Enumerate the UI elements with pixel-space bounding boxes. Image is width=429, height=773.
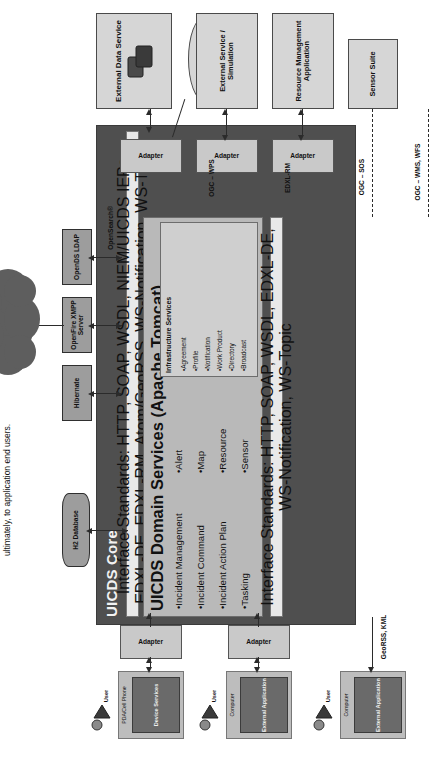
protocol-ogc-wms-wfs-label: OGC – WMS, WFS [414, 144, 421, 201]
infra-item-work-product: •Work Product [214, 231, 225, 371]
network-cloud [0, 265, 44, 381]
arrow-rma-l [298, 135, 304, 141]
external-service-simulation-real: External Service / Simulation [196, 13, 258, 109]
client-computer-device-label-1: Computer [228, 673, 238, 737]
component-openfire-label: OpenFire XMPP Server [70, 298, 85, 352]
protocol-ogc-sos: OGC – SOS [352, 137, 372, 217]
infrastructure-services-title: Infrastructure Services [163, 225, 175, 373]
infra-item-agreement: •Agreement [178, 231, 189, 371]
arrow-adapter1-core [146, 613, 152, 619]
client-computer-app-label-2: External Application [354, 677, 402, 733]
database-icon [127, 44, 153, 78]
infra-item-directory: •Directory [226, 231, 237, 371]
arrow-pda-r [146, 657, 152, 663]
domain-item-alert: •Alert [172, 363, 186, 473]
domain-item-map: •Map [194, 363, 208, 473]
sensor-suite: Sensor Suite [348, 39, 398, 109]
arrow-computer2-l [368, 667, 374, 673]
infra-item-profile: •Profile [190, 231, 201, 371]
arrow-openfire-up [88, 323, 94, 329]
arrow-computer-r [254, 657, 260, 663]
line-computer2-to-core [372, 617, 373, 669]
interface-standards-top-text: Interface Standards: HTTP, SOAP, WSDL, N… [126, 133, 139, 615]
protocol-ogc-wms-wfs: OGC – WMS, WFS [408, 127, 428, 217]
arrow-rma-r [298, 109, 304, 115]
arrow-h2-up [86, 528, 92, 534]
arrow-adapter2-core [254, 613, 260, 619]
protocol-georss-kml: GeoRSS, KML [378, 607, 390, 667]
client-pda-app-label: Device Services [132, 677, 180, 733]
external-data-service-label: External Data Service [115, 20, 124, 102]
protocol-ogc-sos-label: OGC – SOS [358, 159, 365, 195]
arrow-h2-down [122, 528, 128, 534]
client-pda-device-label: PDA/Cell Phone [120, 673, 130, 737]
protocol-ogc-wps: OGC – WPS [206, 143, 218, 213]
user-actor-2-label: User [208, 681, 220, 711]
arrow-ext-svc-r [222, 109, 228, 115]
arrow-pda-l [146, 667, 152, 673]
infra-item-broadcast: •Broadcast [238, 231, 249, 371]
protocol-edxl-rm: EDXL-RM [282, 143, 294, 213]
adapter-external-data-label: Adapter [139, 152, 164, 159]
arrow-ext-data-l [146, 127, 152, 133]
infra-item-notification: •Notification [202, 231, 213, 371]
arrow-opends-down [116, 255, 122, 261]
domain-item-incident-management: •Incident Management [172, 459, 186, 609]
adapter-external-service-label: Adapter [215, 152, 240, 159]
arrow-ext-data-r [146, 109, 152, 115]
adapter-external-data: Adapter [120, 139, 182, 173]
adapter-pda-client: Adapter [120, 625, 182, 659]
user-actor-3-label: User [322, 681, 334, 711]
domain-item-tasking: •Tasking [238, 459, 252, 609]
arrow-opends-up [88, 255, 94, 261]
domain-item-resource: •Resource [216, 363, 230, 473]
domain-item-incident-action-plan: •Incident Action Plan [216, 459, 230, 609]
arrow-hibernate-up [88, 391, 94, 397]
resource-management-application: Resource Management Application [272, 13, 334, 109]
arrow-computer-l [254, 667, 260, 673]
adapter-computer-client: Adapter [228, 625, 290, 659]
adapter-pda-client-label: Adapter [139, 638, 164, 645]
external-data-service: External Data Service [96, 13, 172, 109]
arrow-openfire-down [116, 323, 122, 329]
arrow-ext-svc-l [222, 135, 228, 141]
adapter-computer-client-label: Adapter [247, 638, 272, 645]
arrow-hibernate-down [116, 391, 122, 397]
client-computer-app-label-1: External Application [240, 677, 288, 733]
domain-item-incident-command: •Incident Command [194, 459, 208, 609]
line-sensor-suite [372, 109, 373, 217]
domain-item-sensor: •Sensor [238, 363, 252, 473]
user-actor-1-label: User [100, 681, 112, 711]
adapter-resource-management-label: Adapter [291, 152, 316, 159]
client-computer-device-label-2: Computer [342, 673, 352, 737]
interface-standards-bottom-text: Interface Standards: HTTP, SOAP, WSDL, E… [270, 219, 283, 615]
